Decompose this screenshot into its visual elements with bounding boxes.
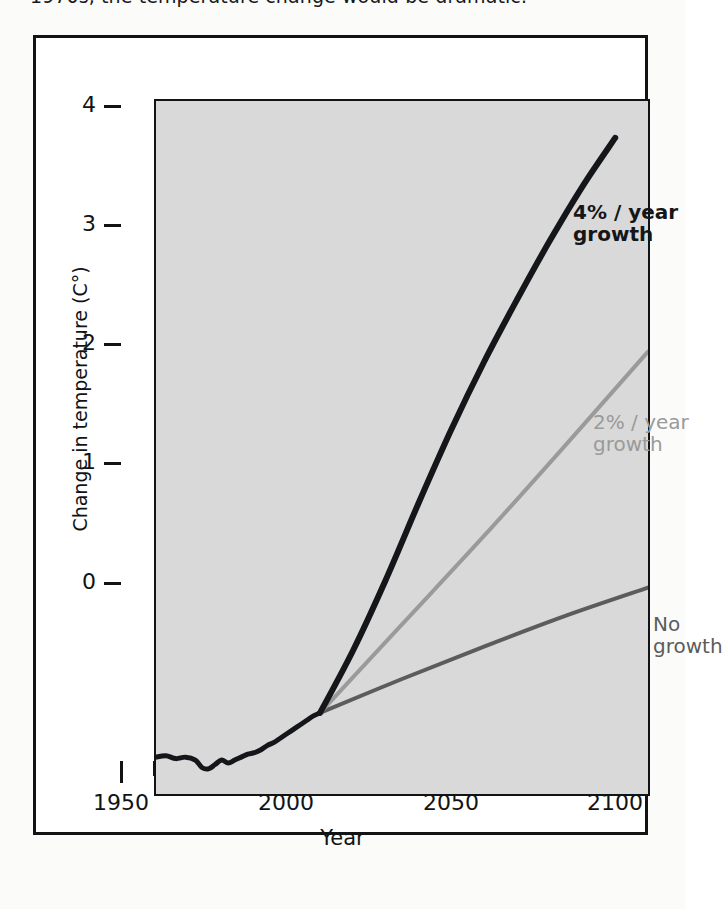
series-label-4-percent: 4% / year growth [573, 201, 678, 246]
y-tick-mark-2 [104, 343, 121, 346]
plot-area: 4% / year growth 2% / year growth No gro… [154, 99, 650, 796]
series-line [320, 138, 615, 713]
caption-strip: 1970s, the temperature change would be d… [0, 0, 685, 16]
x-tick-mark-1950 [120, 761, 123, 783]
y-tick-mark-1 [104, 462, 121, 465]
x-tick-label-1950: 1950 [76, 790, 166, 815]
y-tick-mark-4 [104, 105, 121, 108]
series-label-2-percent: 2% / year growth [593, 411, 689, 456]
series-label-no-growth: No growth [653, 613, 723, 658]
series-line [320, 352, 648, 713]
caption-text: 1970s, the temperature change would be d… [30, 0, 527, 7]
y-axis-title: Change in temperature (C°) [69, 249, 91, 549]
figure-frame: 4 3 2 1 0 1950 2000 2050 2100 Change in … [33, 35, 648, 835]
y-tick-label-0: 0 [56, 569, 96, 594]
series-line [320, 588, 648, 713]
y-tick-label-3: 3 [56, 211, 96, 236]
y-tick-mark-3 [104, 224, 121, 227]
y-tick-mark-0 [104, 582, 121, 585]
y-tick-label-4: 4 [56, 92, 96, 117]
series-line [156, 713, 320, 769]
x-axis-title: Year [0, 826, 685, 850]
